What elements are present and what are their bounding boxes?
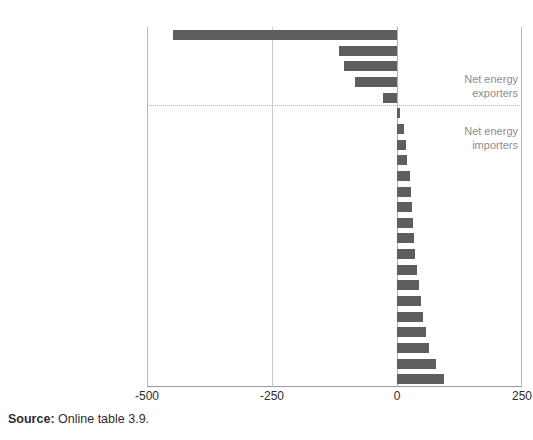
bar (397, 312, 423, 322)
chart-area: AzerbaijanTurkmenistanKazakhstanRussian … (0, 13, 533, 405)
group-separator-line (147, 105, 522, 106)
bar (397, 249, 415, 259)
x-tick-label-0: 0 (394, 389, 401, 403)
bar (355, 77, 397, 87)
bar (397, 280, 419, 290)
bar-row (147, 262, 522, 278)
bar (397, 327, 426, 337)
annotation-importers-line1: Net energy (420, 125, 518, 139)
annotation-exporters-line1: Net energy (420, 73, 518, 87)
bar-row (147, 293, 522, 309)
bar-row (147, 43, 522, 59)
annotation-importers-line2: importers (420, 139, 518, 153)
bar (397, 171, 410, 181)
bar (397, 124, 404, 134)
bar-row (147, 277, 522, 293)
annotation-net-energy-importers: Net energy importers (420, 125, 518, 152)
bar (397, 359, 436, 369)
bar (397, 155, 407, 165)
bar (397, 140, 406, 150)
bar-row (147, 215, 522, 231)
source-text: Online table 3.9. (58, 412, 149, 426)
bar-row (147, 168, 522, 184)
bar-row (147, 340, 522, 356)
x-tick-label-250: 250 (512, 389, 532, 403)
bar-row (147, 105, 522, 121)
bar-row (147, 184, 522, 200)
bar-row (147, 324, 522, 340)
bar-row (147, 58, 522, 74)
bar-row (147, 199, 522, 215)
annotation-net-energy-exporters: Net energy exporters (420, 73, 518, 100)
bar-row (147, 152, 522, 168)
bar (397, 265, 417, 275)
source-label: Source: (8, 412, 55, 426)
x-axis-tick-labels: -500-2500250 (147, 389, 522, 409)
bar-row (147, 356, 522, 372)
bar (344, 61, 397, 71)
x-tick-label--250: -250 (260, 389, 284, 403)
annotation-exporters-line2: exporters (420, 87, 518, 101)
bar (397, 343, 429, 353)
bar (397, 108, 400, 118)
bar (397, 202, 412, 212)
bar (397, 187, 411, 197)
bar-row (147, 230, 522, 246)
bar-row (147, 371, 522, 387)
x-tick-label--500: -500 (135, 389, 159, 403)
bar-row (147, 246, 522, 262)
bar (397, 296, 421, 306)
bar (339, 46, 397, 56)
bar (383, 93, 397, 103)
bar-row (147, 309, 522, 325)
bar (173, 30, 397, 40)
bar (397, 218, 413, 228)
bar-row (147, 27, 522, 43)
bar (397, 233, 414, 243)
source-note: Source: Online table 3.9. (8, 412, 149, 426)
chart-title-strip (0, 0, 533, 13)
bar (397, 374, 444, 384)
